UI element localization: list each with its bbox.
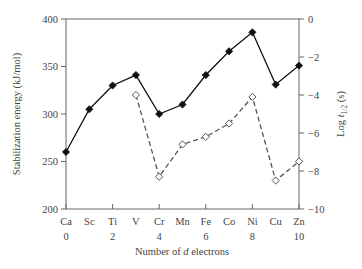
x-number-label: 2 [110, 231, 115, 242]
x-axis-title: Number of d electrons [135, 246, 229, 257]
open-diamond-marker [272, 177, 279, 184]
plot-frame [66, 19, 299, 209]
series-markers [62, 29, 302, 184]
left-tick-label: 250 [42, 156, 58, 167]
filled-diamond-marker [132, 71, 139, 78]
filled-diamond-marker [156, 110, 163, 117]
x-number-label: 10 [294, 231, 305, 242]
filled-diamond-marker [62, 148, 69, 155]
plot-border [66, 19, 299, 209]
x-category-label: Sc [84, 216, 95, 227]
y-axis-title: Stabilization energy (kJ/mol) [11, 52, 23, 175]
x-category-label: V [132, 216, 140, 227]
x-category-label: Ca [60, 216, 72, 227]
right-tick-label: 0 [308, 14, 313, 25]
x-category-label: Mn [175, 216, 190, 227]
x-category-label: Fe [201, 216, 212, 227]
stabilization-energy-line [66, 32, 299, 152]
right-tick-label: −6 [308, 128, 319, 139]
open-diamond-marker [202, 133, 209, 140]
y2-axis-title: Log t1/2 (s) [335, 91, 349, 137]
log-halflife-line [136, 95, 299, 181]
left-tick-label: 350 [42, 61, 58, 72]
x-axis: CaScTiVCrMnFeCoNiCuZn0246810 [60, 204, 305, 242]
chart: 200250300350400 0−2−4−6−8−10 CaScTiVCrMn… [0, 0, 362, 269]
right-tick-label: −2 [308, 52, 319, 63]
x-category-label: Co [223, 216, 235, 227]
x-number-label: 0 [63, 231, 68, 242]
x-number-label: 8 [250, 231, 255, 242]
left-tick-label: 300 [42, 109, 58, 120]
right-tick-label: −4 [308, 90, 320, 101]
left-tick-label: 400 [42, 14, 58, 25]
x-category-label: Cu [270, 216, 283, 227]
right-tick-label: −8 [308, 166, 319, 177]
open-diamond-marker [132, 91, 139, 98]
left-tick-label: 200 [42, 204, 58, 215]
left-y-axis: 200250300350400 [42, 14, 66, 215]
x-category-label: Ti [108, 216, 117, 227]
open-diamond-marker [249, 93, 256, 100]
x-number-label: 4 [157, 231, 163, 242]
x-number-label: 6 [203, 231, 208, 242]
right-y-axis: 0−2−4−6−8−10 [299, 14, 324, 215]
x-category-label: Zn [293, 216, 305, 227]
x-category-label: Ni [247, 216, 258, 227]
right-tick-label: −10 [308, 204, 324, 215]
x-category-label: Cr [154, 216, 165, 227]
